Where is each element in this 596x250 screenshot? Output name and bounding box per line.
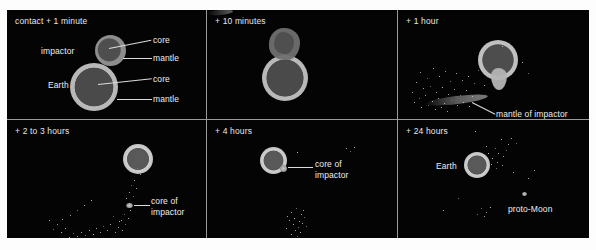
leader-earth-mantle: [117, 99, 152, 100]
panel-time-label: + 24 hours: [406, 126, 448, 136]
earth-label: Earth: [436, 161, 457, 171]
panel-24-hours: + 24 hours Earth proto-Moon: [397, 119, 589, 238]
panel-1-hour: + 1 hour: [397, 10, 589, 119]
panel-10-minutes: + 10 minutes: [206, 10, 397, 119]
panel-time-label: contact + 1 minute: [15, 16, 87, 26]
panel-time-label: + 10 minutes: [215, 16, 266, 26]
earth-body: [70, 63, 118, 111]
earth-mantle-label: mantle: [153, 94, 179, 104]
earth-body: [123, 144, 153, 174]
mantle-of-impactor-label: mantle of impactor: [496, 109, 568, 119]
leader-impactor-mantle: [123, 58, 152, 59]
earth-body: [464, 152, 490, 178]
earth-body: [262, 55, 308, 101]
panel-time-label: + 1 hour: [406, 16, 439, 26]
leader-mantle-of-impactor: [472, 102, 496, 115]
debris-field: [398, 120, 589, 238]
impactor-mantle-label: mantle: [153, 53, 179, 63]
earth-core-label: core: [153, 74, 170, 84]
panel-time-label: + 2 to 3 hours: [15, 126, 69, 136]
impactor-label: impactor: [41, 46, 74, 56]
panel-time-label: + 4 hours: [215, 126, 252, 136]
proto-moon-blob: [522, 192, 527, 196]
earth-trailing-bulge: [491, 68, 507, 90]
earth-label: Earth: [48, 80, 69, 90]
impactor-core-shape: [274, 32, 294, 54]
debris-field: [7, 120, 206, 238]
panel-grid: contact + 1 minute impactor core mantle …: [7, 10, 589, 238]
panel-2-to-3-hours: + 2 to 3 hours: [7, 119, 206, 238]
core-of-impactor-label: core of impactor: [151, 196, 206, 218]
leader-core-of-impactor: [134, 205, 150, 206]
proto-moon-label: proto-Moon: [508, 204, 552, 214]
impactor-body: [95, 35, 126, 66]
core-of-impactor-blob: [126, 203, 133, 208]
leader-core-of-impactor: [288, 167, 313, 168]
giant-impact-figure: contact + 1 minute impactor core mantle …: [0, 0, 596, 250]
core-of-impactor-label: core of impactor: [315, 159, 377, 181]
panel-4-hours: + 4 hours core of impactor: [206, 119, 397, 238]
impactor-core-label: core: [153, 35, 170, 45]
panel-contact-1-minute: contact + 1 minute impactor core mantle …: [7, 10, 206, 119]
core-of-impactor-blob: [280, 165, 287, 172]
